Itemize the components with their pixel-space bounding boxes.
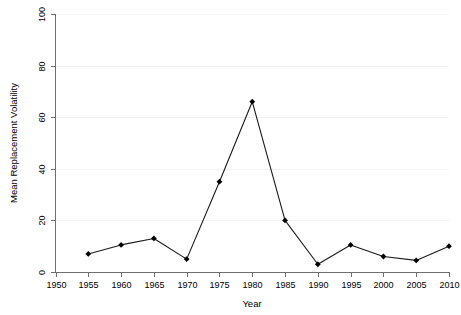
x-tick-label: 1980 bbox=[242, 280, 262, 290]
x-tick-label: 1950 bbox=[46, 280, 66, 290]
x-tick-label: 1960 bbox=[111, 280, 131, 290]
x-tick-label: 1990 bbox=[308, 280, 328, 290]
y-tick-label: 60 bbox=[37, 112, 47, 122]
x-axis-title: Year bbox=[242, 298, 261, 309]
y-tick-label: 40 bbox=[37, 164, 47, 174]
y-tick-label: 0 bbox=[37, 270, 47, 275]
chart-background bbox=[0, 0, 461, 315]
y-tick-label: 100 bbox=[37, 7, 47, 22]
x-tick-label: 1995 bbox=[341, 280, 361, 290]
x-tick-label: 1975 bbox=[209, 280, 229, 290]
x-tick-label: 1955 bbox=[78, 280, 98, 290]
x-tick-label: 1965 bbox=[144, 280, 164, 290]
x-tick-label: 1985 bbox=[275, 280, 295, 290]
chart-figure: 020406080100 195019551960196519701975198… bbox=[0, 0, 461, 315]
x-tick-label: 2010 bbox=[439, 280, 459, 290]
y-tick-label: 20 bbox=[37, 215, 47, 225]
x-tick-label: 2000 bbox=[373, 280, 393, 290]
y-axis-title: Mean Replacement Volatility bbox=[8, 83, 19, 203]
y-tick-label: 80 bbox=[37, 61, 47, 71]
x-tick-label: 2005 bbox=[406, 280, 426, 290]
x-tick-label: 1970 bbox=[177, 280, 197, 290]
